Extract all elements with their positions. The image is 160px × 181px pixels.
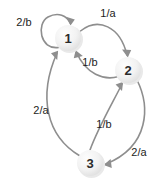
arrowhead-self-loop bbox=[66, 17, 75, 26]
edge-1-to-2 bbox=[81, 25, 132, 58]
edge-label-2-to-1: 1/b bbox=[82, 56, 97, 68]
state-node-3[interactable]: 3 bbox=[77, 150, 105, 178]
state-2-label: 2 bbox=[124, 63, 131, 78]
state-1-label: 1 bbox=[64, 31, 71, 46]
state-node-2[interactable]: 2 bbox=[115, 57, 143, 85]
state-node-1[interactable]: 1 bbox=[55, 25, 83, 53]
edge-label-2-to-3: 2/a bbox=[131, 146, 147, 158]
edge-label-self-loop: 2/b bbox=[16, 16, 31, 28]
state-machine-diagram: 1 2 3 2/b 1/a 1/b 2/a 1/b 2/a bbox=[0, 0, 160, 181]
edge-path-1-to-2 bbox=[81, 25, 128, 55]
state-3-label: 3 bbox=[86, 156, 93, 171]
edge-label-3-to-2: 1/b bbox=[96, 118, 111, 130]
edge-path-3-to-1 bbox=[47, 53, 80, 156]
edge-label-1-to-2: 1/a bbox=[100, 7, 116, 19]
fsm-canvas: 1 2 3 2/b 1/a 1/b 2/a 1/b 2/a bbox=[0, 0, 160, 181]
arrowhead-1-to-2 bbox=[122, 49, 131, 57]
edge-3-to-1 bbox=[47, 51, 80, 156]
edge-path-3-to-2 bbox=[90, 84, 122, 150]
edge-3-to-2 bbox=[90, 82, 123, 150]
edge-label-3-to-1: 2/a bbox=[33, 104, 49, 116]
